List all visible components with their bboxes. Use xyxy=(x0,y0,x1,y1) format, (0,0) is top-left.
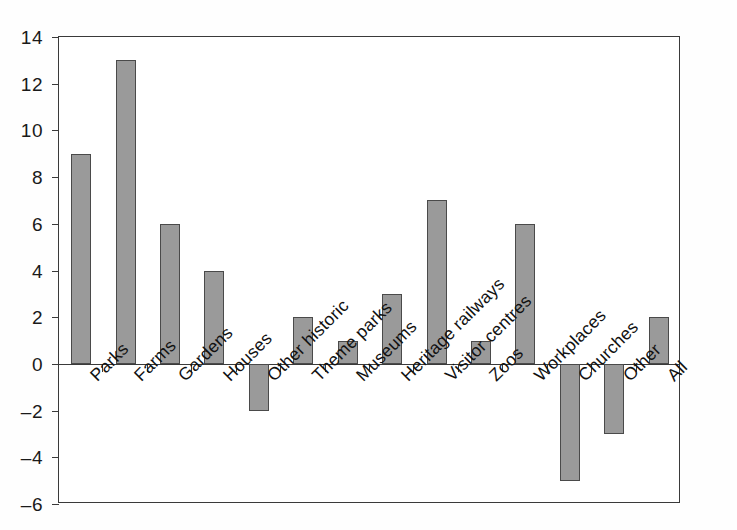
y-axis-tick-label: 10 xyxy=(21,120,43,142)
y-axis-tick-label: 14 xyxy=(21,27,43,49)
plot-area: 14121086420–2–4–6 xyxy=(58,36,680,503)
bar[interactable] xyxy=(604,364,624,434)
bar-slot xyxy=(414,37,458,502)
bar-slot xyxy=(459,37,503,502)
y-axis-tick-label: 0 xyxy=(32,354,43,376)
y-axis-tick-label: 2 xyxy=(32,307,43,329)
bar[interactable] xyxy=(560,364,580,481)
y-axis-tick: 0 xyxy=(52,364,59,365)
y-axis-tick-label: 8 xyxy=(32,167,43,189)
y-axis-tick-label: 6 xyxy=(32,214,43,236)
y-axis-tick: 12 xyxy=(52,84,59,85)
y-axis-tick: 8 xyxy=(52,177,59,178)
y-axis-tick: 14 xyxy=(52,37,59,38)
y-axis-tick: 4 xyxy=(52,271,59,272)
bars-layer xyxy=(59,37,679,502)
y-axis-tick-label: 12 xyxy=(21,74,43,96)
bar-slot xyxy=(503,37,547,502)
bar[interactable] xyxy=(116,60,136,364)
y-axis-tick-label: 4 xyxy=(32,261,43,283)
bar[interactable] xyxy=(71,154,91,364)
y-axis-tick-label: –2 xyxy=(21,401,43,423)
bar-slot xyxy=(326,37,370,502)
y-axis-tick: 2 xyxy=(52,317,59,318)
y-axis-tick: –2 xyxy=(52,411,59,412)
bar-slot xyxy=(281,37,325,502)
bar-slot xyxy=(237,37,281,502)
y-axis-tick-label: –6 xyxy=(21,494,43,516)
bar-chart: 14121086420–2–4–6 ParksFarmsGardensHouse… xyxy=(0,0,737,530)
bar-slot xyxy=(192,37,236,502)
y-axis-tick: –4 xyxy=(52,457,59,458)
y-axis-tick: 10 xyxy=(52,130,59,131)
bar-slot xyxy=(637,37,681,502)
bar-slot xyxy=(148,37,192,502)
y-axis-tick: –6 xyxy=(52,504,59,505)
bar-slot xyxy=(59,37,103,502)
bar-slot xyxy=(370,37,414,502)
bar-slot xyxy=(548,37,592,502)
bar-slot xyxy=(103,37,147,502)
bar-slot xyxy=(592,37,636,502)
y-axis-tick: 6 xyxy=(52,224,59,225)
y-axis-tick-label: –4 xyxy=(21,447,43,469)
